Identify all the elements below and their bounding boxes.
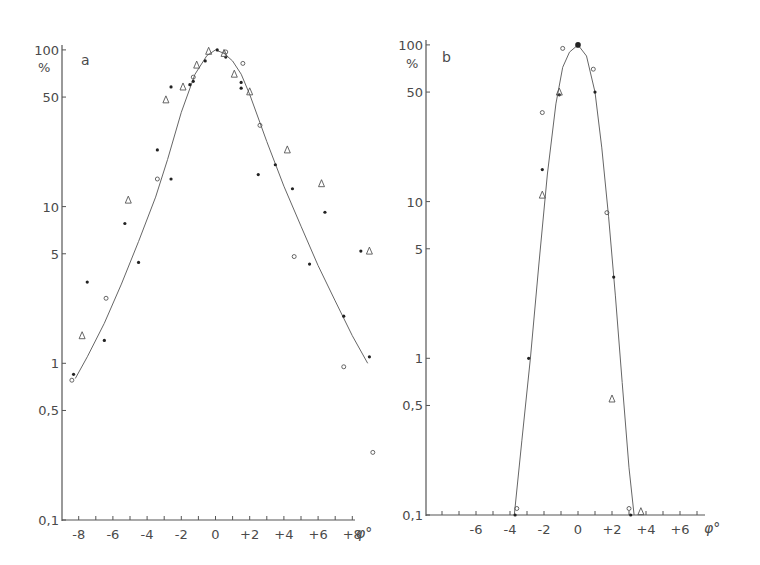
data-point-circle bbox=[292, 255, 296, 259]
data-point-circle bbox=[342, 365, 346, 369]
data-point-circle bbox=[155, 177, 159, 181]
data-point-triangle bbox=[539, 191, 545, 198]
panel-b-fit-curve bbox=[514, 45, 634, 515]
panel-b-data-points bbox=[514, 42, 644, 517]
data-point-dot bbox=[240, 81, 243, 84]
data-point-dot bbox=[308, 262, 311, 265]
data-point-dot bbox=[123, 222, 126, 225]
data-point-dot bbox=[137, 261, 140, 264]
y-tick-label: 10 bbox=[42, 200, 59, 215]
y-tick-label: 100 bbox=[398, 38, 423, 53]
x-tick-label: 0 bbox=[211, 527, 219, 542]
x-tick-label: +2 bbox=[602, 522, 621, 537]
data-point-dot bbox=[359, 250, 362, 253]
data-point-triangle bbox=[638, 508, 644, 515]
data-point-triangle bbox=[194, 61, 200, 68]
data-point-dot bbox=[169, 177, 172, 180]
panel-a-x-unit: φ° bbox=[356, 525, 372, 541]
figure: 1005010510,50,1 -8-6-4-20+2+4+6+8 % a φ°… bbox=[0, 0, 760, 565]
y-tick-label: 0,1 bbox=[38, 513, 59, 528]
x-tick-label: -6 bbox=[470, 522, 483, 537]
data-point-circle bbox=[371, 450, 375, 454]
x-tick-label: -8 bbox=[72, 527, 85, 542]
panel-a-y-ticks: 1005010510,50,1 bbox=[34, 43, 66, 528]
x-tick-label: +2 bbox=[240, 527, 259, 542]
data-point-circle bbox=[241, 61, 245, 65]
panel-a-data-points bbox=[70, 47, 375, 454]
data-point-dot bbox=[169, 85, 172, 88]
data-point-triangle bbox=[609, 395, 615, 402]
data-point-circle bbox=[561, 46, 565, 50]
x-tick-label: +6 bbox=[670, 522, 689, 537]
data-point-circle bbox=[591, 67, 595, 71]
data-point-triangle bbox=[319, 180, 325, 187]
y-tick-label: 0,1 bbox=[402, 508, 423, 523]
data-point-dot bbox=[291, 187, 294, 190]
data-point-dot bbox=[274, 163, 277, 166]
y-tick-label: 0,5 bbox=[38, 403, 59, 418]
panel-a-plot: 1005010510,50,1 -8-6-4-20+2+4+6+8 % a φ° bbox=[34, 43, 375, 542]
panel-b-y-ticks: 1005010510,50,1 bbox=[398, 38, 430, 523]
data-point-triangle bbox=[284, 146, 290, 153]
data-point-dot bbox=[342, 315, 345, 318]
data-point-circle bbox=[540, 111, 544, 115]
y-tick-label: 1 bbox=[415, 351, 423, 366]
y-tick-label: 50 bbox=[42, 90, 59, 105]
y-tick-label: 5 bbox=[51, 247, 59, 262]
data-point-dot bbox=[541, 168, 544, 171]
data-point-dot bbox=[156, 148, 159, 151]
x-tick-label: -4 bbox=[504, 522, 517, 537]
data-point-triangle bbox=[163, 96, 169, 103]
data-point-dot bbox=[575, 42, 581, 48]
x-tick-label: 0 bbox=[574, 522, 582, 537]
data-point-triangle bbox=[206, 47, 212, 54]
data-point-dot bbox=[192, 80, 195, 83]
data-point-circle bbox=[627, 507, 631, 511]
data-point-triangle bbox=[366, 247, 372, 254]
panel-b-x-unit: φ° bbox=[704, 520, 720, 536]
data-point-triangle bbox=[79, 332, 85, 339]
data-point-dot bbox=[86, 280, 89, 283]
data-point-dot bbox=[593, 90, 596, 93]
x-tick-label: -2 bbox=[175, 527, 188, 542]
data-point-dot bbox=[514, 513, 517, 516]
x-tick-label: -4 bbox=[141, 527, 154, 542]
data-point-dot bbox=[103, 339, 106, 342]
panel-a-fit-curve bbox=[75, 50, 367, 379]
data-point-dot bbox=[368, 355, 371, 358]
panel-b-y-unit: % bbox=[406, 56, 418, 71]
panel-a-title: a bbox=[81, 52, 90, 68]
x-tick-label: +6 bbox=[309, 527, 328, 542]
data-point-dot bbox=[216, 48, 219, 51]
data-point-dot bbox=[257, 173, 260, 176]
data-point-dot bbox=[323, 211, 326, 214]
data-point-dot bbox=[527, 357, 530, 360]
data-point-dot bbox=[240, 87, 243, 90]
data-point-triangle bbox=[180, 83, 186, 90]
data-point-circle bbox=[104, 296, 108, 300]
y-tick-label: 50 bbox=[406, 85, 423, 100]
panel-b-title: b bbox=[442, 49, 451, 65]
y-tick-label: 10 bbox=[406, 195, 423, 210]
data-point-triangle bbox=[125, 196, 131, 203]
data-point-dot bbox=[188, 83, 191, 86]
y-tick-label: 100 bbox=[34, 43, 59, 58]
y-tick-label: 5 bbox=[415, 242, 423, 257]
data-point-circle bbox=[70, 378, 74, 382]
x-tick-label: +4 bbox=[274, 527, 293, 542]
data-point-dot bbox=[612, 275, 615, 278]
x-tick-label: -2 bbox=[538, 522, 551, 537]
data-point-dot bbox=[72, 373, 75, 376]
y-tick-label: 1 bbox=[51, 356, 59, 371]
data-point-triangle bbox=[231, 70, 237, 77]
data-point-dot bbox=[629, 513, 632, 516]
panel-a-y-unit: % bbox=[38, 60, 50, 75]
panel-b-plot: 1005010510,50,1 -6-4-20+2+4+6 % b φ° bbox=[398, 38, 720, 537]
x-tick-label: -6 bbox=[106, 527, 119, 542]
y-tick-label: 0,5 bbox=[402, 398, 423, 413]
x-tick-label: +4 bbox=[636, 522, 655, 537]
data-point-dot bbox=[204, 59, 207, 62]
